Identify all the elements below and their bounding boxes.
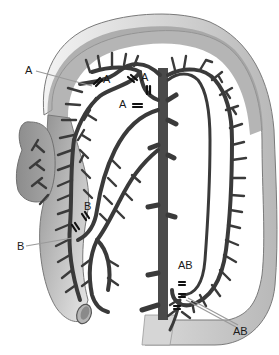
label-a-upper-left: A <box>103 73 111 85</box>
colon-vasculature-diagram: A A A A B B AB AB <box>0 0 279 355</box>
label-ab-inner: AB <box>178 259 193 271</box>
mesenteric-arteries <box>69 64 232 330</box>
label-a-upper-right: A <box>141 71 149 83</box>
label-ab-outer: AB <box>233 325 248 337</box>
label-b-outer: B <box>17 240 24 252</box>
label-a-outer: A <box>25 64 33 76</box>
label-a-middle: A <box>119 98 127 110</box>
colon-shape <box>16 14 277 345</box>
aorta <box>142 68 176 320</box>
label-b-inner: B <box>84 200 91 212</box>
